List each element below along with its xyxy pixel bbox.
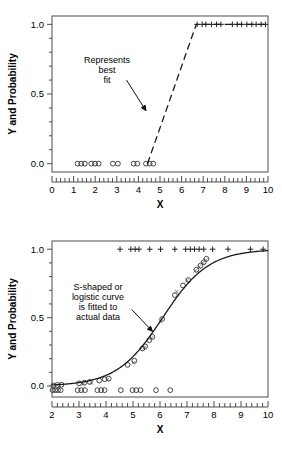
bottom-y-axis-title: Y and Probability (7, 278, 18, 360)
x-tick-label: 10 (263, 409, 274, 420)
plot-frame (52, 16, 268, 172)
x-tick-label: 0 (49, 184, 54, 195)
observed-one-outcomes-point (210, 246, 216, 252)
x-tick-label: 2 (49, 409, 54, 420)
observed-one-outcomes-point (117, 246, 123, 252)
annotation-text: S-shaped orlogistic curveis fitted toact… (72, 282, 124, 322)
x-tick-label: 4 (103, 409, 108, 420)
step-best-fit-line (147, 24, 268, 163)
observed-zero-outcomes-point (102, 388, 107, 393)
observed-one-outcomes-point (158, 246, 164, 252)
observed-one-outcomes-point (248, 246, 254, 252)
observed-zero-outcomes-point (168, 388, 173, 393)
x-tick-label: 8 (211, 409, 216, 420)
annotation-arrowhead (141, 105, 146, 110)
x-tick-label: 3 (76, 409, 81, 420)
annotation-line: is fitted to (79, 302, 118, 312)
annotation-line: S-shaped or (73, 282, 122, 292)
x-tick-label: 10 (263, 184, 274, 195)
bottom-chart-svg: 23456789100.00.51.0 S-shaped orlogistic … (0, 225, 282, 449)
observed-zero-outcomes-point (154, 388, 159, 393)
y-tick-label: 0.0 (31, 158, 44, 169)
chart-panel-top: 0123456789100.00.51.0 Representsbestfit … (0, 0, 282, 224)
x-tick-label: 4 (136, 184, 141, 195)
two-panel-logistic-figure: 0123456789100.00.51.0 Representsbestfit … (0, 0, 282, 449)
x-tick-label: 9 (238, 409, 243, 420)
annotation-text: Representsbestfit (84, 55, 131, 85)
x-tick-label: 7 (201, 184, 206, 195)
x-tick-label: 6 (157, 409, 162, 420)
observed-one-outcomes-point (172, 246, 178, 252)
top-x-axis-title: X (157, 199, 164, 210)
annotation-line: fit (104, 75, 112, 85)
observed-zero-outcomes-point (111, 161, 116, 166)
x-tick-label: 5 (130, 409, 135, 420)
observed-one-outcomes-point (225, 246, 231, 252)
observed-one-outcomes-point (136, 246, 142, 252)
x-tick-label: 7 (184, 409, 189, 420)
x-tick-label: 1 (71, 184, 76, 195)
y-tick-label: 1.0 (31, 244, 44, 255)
x-tick-label: 2 (93, 184, 98, 195)
y-tick-label: 0.5 (31, 88, 44, 99)
residual-x-marks-point (193, 269, 197, 273)
residual-x-marks-point (197, 265, 201, 269)
top-y-axis-title: Y and Probability (7, 53, 18, 135)
observed-zero-outcomes-point (115, 161, 120, 166)
annotation-line: logistic curve (72, 292, 124, 302)
y-tick-label: 0.5 (31, 312, 44, 323)
observed-zero-outcomes-point (118, 388, 123, 393)
annotation-line: best (99, 65, 117, 75)
annotation-line: actual data (76, 312, 120, 322)
observed-one-outcomes-point (147, 246, 153, 252)
bottom-x-axis-title: X (157, 424, 164, 435)
observed-one-outcomes-point (201, 246, 207, 252)
x-tick-label: 5 (157, 184, 162, 195)
x-tick-label: 9 (244, 184, 249, 195)
y-tick-label: 1.0 (31, 19, 44, 30)
chart-panel-bottom: 23456789100.00.51.0 S-shaped orlogistic … (0, 225, 282, 449)
x-tick-label: 6 (179, 184, 184, 195)
top-chart-svg: 0123456789100.00.51.0 Representsbestfit … (0, 0, 282, 224)
annotation-line: Represents (84, 55, 131, 65)
y-tick-label: 0.0 (31, 380, 44, 391)
x-tick-label: 8 (222, 184, 227, 195)
x-tick-label: 3 (114, 184, 119, 195)
